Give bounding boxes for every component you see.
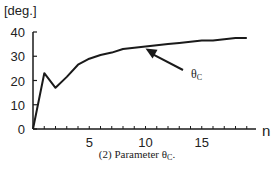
y-axis-unit-label: [deg.] (4, 3, 37, 18)
y-axis: 010203040 (11, 25, 37, 137)
annotation-label: θC (191, 67, 202, 82)
x-axis: 51015 (33, 126, 256, 150)
annotation-arrow (146, 49, 184, 70)
arrow-head-icon (146, 49, 158, 59)
y-tick-label: 20 (11, 74, 25, 89)
caption-text: (2) Parameter θ (99, 148, 167, 160)
y-tick-label: 30 (11, 49, 25, 64)
y-tick-label: 40 (11, 25, 25, 40)
caption-suffix: . (172, 148, 175, 160)
x-axis-label: n (262, 122, 270, 139)
figure-caption: (2) Parameter θC. (0, 148, 274, 162)
y-tick-label: 10 (11, 98, 25, 113)
y-tick-label: 0 (18, 122, 25, 137)
data-line-theta-c (33, 38, 247, 129)
chart: [deg.] 010203040 51015 n θC (0, 0, 274, 172)
